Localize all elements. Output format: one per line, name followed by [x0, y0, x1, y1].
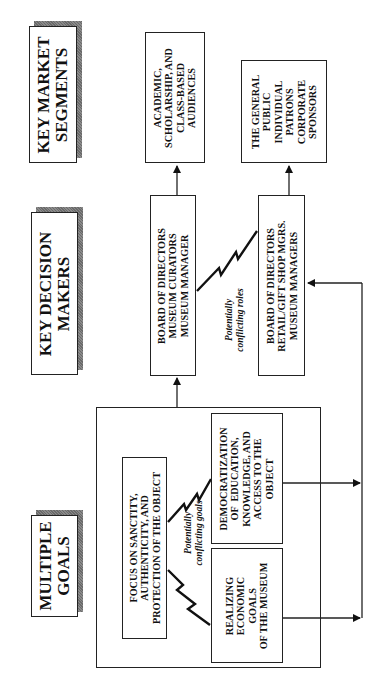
cell-line: ACCESS TO THE	[253, 427, 264, 530]
note-line: Potentially	[183, 500, 194, 565]
cell-line: OF THE MUSEUM	[258, 562, 269, 649]
note-line: Potentially	[224, 288, 235, 352]
header-line: SEGMENTS	[53, 36, 71, 153]
header-multiple-goals: MULTIPLE GOALS	[31, 515, 78, 617]
cell-line: AUDIENCES	[186, 48, 197, 148]
segment-general-public: THE GENERAL PUBLIC INDIVIDUAL PATRONS CO…	[241, 60, 327, 163]
cell-line: REALIZING	[224, 562, 235, 649]
header-line: KEY MARKET	[35, 36, 53, 153]
header-key-decision-makers: KEY DECISION MAKERS	[31, 212, 78, 375]
cell-line: FOCUS ON SANCTITY,	[127, 472, 138, 624]
header-line: MAKERS	[55, 231, 73, 356]
cell-line: OBJECT	[264, 427, 275, 530]
note-line: conflicting roles	[235, 288, 246, 352]
cell-line: THE GENERAL	[250, 74, 261, 148]
cell-line: PROTECTION OF THE OBJECT	[150, 472, 161, 624]
segment-academic-audiences: ACADEMIC, SCHOLARSHIP, AND CLASS-BASED A…	[145, 32, 205, 163]
cell-line: BOARD OF DIRECTORS	[264, 220, 275, 351]
goal-focus-on-sanctity: FOCUS ON SANCTITY, AUTHENTICITY, AND PRO…	[122, 457, 167, 639]
header-key-market-segments: KEY MARKET SEGMENTS	[29, 26, 77, 163]
cell-line: DEMOCRATIZATION	[218, 427, 229, 530]
header-line: GOALS	[55, 521, 73, 610]
header-line: MULTIPLE	[37, 521, 55, 610]
cell-line: PATRONS	[284, 74, 295, 148]
decision-makers-commercial: BOARD OF DIRECTORS RETAIL/GIFT SHOP MGRS…	[258, 195, 305, 376]
note-line: conflicting goals	[194, 500, 205, 565]
goal-democratization: DEMOCRATIZATION OF EDUCATION, KNOWLEDGE,…	[211, 413, 283, 544]
cell-line: ECONOMIC	[236, 562, 247, 649]
cell-line: RETAIL/GIFT SHOP MGRS.	[276, 220, 287, 351]
cell-line: OF EDUCATION,	[230, 427, 241, 530]
header-line: KEY DECISION	[37, 231, 55, 356]
cell-line: ACADEMIC,	[152, 48, 163, 148]
cell-line: KNOWLEDGE, AND	[241, 427, 252, 530]
goal-economic: REALIZING ECONOMIC GOALS OF THE MUSEUM	[211, 548, 283, 663]
cell-line: INDIVIDUAL	[273, 74, 284, 148]
decision-makers-curatorial: BOARD OF DIRECTORS MUSEUM CURATORS MUSEU…	[150, 195, 196, 376]
cell-line: SCHOLARSHIP, AND	[164, 48, 175, 148]
annotation-conflicting-roles: Potentially conflicting roles	[222, 280, 248, 360]
cell-line: PUBLIC	[261, 74, 272, 148]
cell-line: BOARD OF DIRECTORS	[156, 227, 167, 343]
cell-line: CORPORATE	[295, 74, 306, 148]
cell-line: AUTHENTICITY, AND	[139, 472, 150, 624]
annotation-conflicting-goals: Potentially conflicting goals	[180, 495, 208, 570]
cell-line: CLASS-BASED	[175, 48, 186, 148]
cell-line: MUSEUM CURATORS	[167, 227, 178, 343]
cell-line: MUSEUM MANAGERS	[287, 220, 298, 351]
cell-line: MUSEUM MANAGER	[179, 227, 190, 343]
cell-line: SPONSORS	[307, 74, 318, 148]
cell-line: GOALS	[247, 562, 258, 649]
